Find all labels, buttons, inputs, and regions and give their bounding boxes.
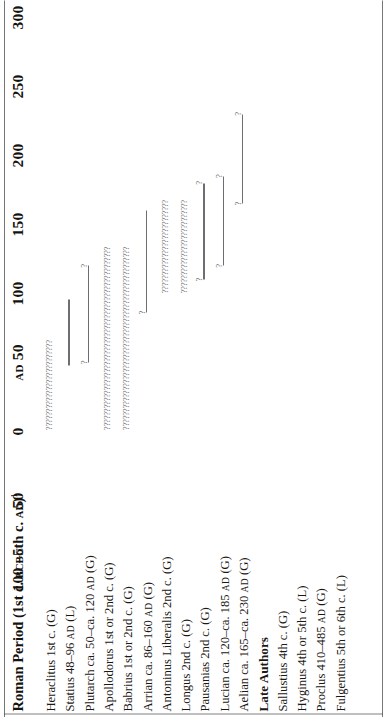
timeline-bar-statius xyxy=(68,299,69,365)
uncertainty-marker-start-arrian: ? xyxy=(138,311,147,315)
uncertainty-marker-start-lucian: ? xyxy=(215,264,224,268)
timeline-bar-lucian xyxy=(223,176,224,266)
uncertainty-marker-end-plutarch: ? xyxy=(80,264,89,268)
timeline-bar-arrian xyxy=(146,210,147,312)
axis-tick-BC-100: 100 BC xyxy=(9,547,27,591)
axis-tick-200: 200 xyxy=(9,143,27,167)
axis-tick-250: 250 xyxy=(9,74,27,98)
time-axis: 100 BC500AD 50100150200250300 xyxy=(0,0,40,717)
axis-tick-50: 50 xyxy=(9,492,27,508)
uncertainty-marker-end-aelian: ? xyxy=(234,112,243,116)
timeline-bars: ????????????????????????????????????????… xyxy=(40,0,386,717)
axis-tick-100: 100 xyxy=(9,281,27,305)
uncertainty-marker-start-plutarch: ? xyxy=(80,360,89,364)
timeline-bar-pausanias xyxy=(203,183,204,280)
timeline-uncertain-span-babrius: ????????????????????????????????????????… xyxy=(121,155,131,430)
timeline-bar-plutarch xyxy=(88,265,89,362)
axis-tick-150: 150 xyxy=(9,212,27,236)
timeline-uncertain-span-heraclitus: ????????????????????????? xyxy=(44,293,54,430)
timeline-uncertain-span-apollodorus: ????????????????????????????????????????… xyxy=(102,155,112,430)
timeline-uncertain-span-longus: ?????????????????????????? xyxy=(179,155,189,293)
uncertainty-marker-start-aelian: ? xyxy=(234,202,243,206)
uncertainty-marker-start-pausanias: ? xyxy=(195,277,204,281)
page-frame: Roman Period (1st c. BC–5th c. AD)1 100 … xyxy=(0,0,386,717)
timeline-uncertain-span-antoninus-liberalis: ?????????????????????????? xyxy=(160,155,170,293)
axis-tick-AD-50: AD 50 xyxy=(9,344,27,380)
timeline-chart: Roman Period (1st c. BC–5th c. AD)1 100 … xyxy=(0,0,386,717)
axis-tick-0: 0 xyxy=(9,427,27,435)
uncertainty-marker-end-pausanias: ? xyxy=(195,181,204,185)
rotated-page-canvas: Roman Period (1st c. BC–5th c. AD)1 100 … xyxy=(0,0,386,717)
timeline-bar-aelian xyxy=(242,114,243,204)
uncertainty-marker-end-lucian: ? xyxy=(215,174,224,178)
axis-tick-300: 300 xyxy=(9,5,27,29)
